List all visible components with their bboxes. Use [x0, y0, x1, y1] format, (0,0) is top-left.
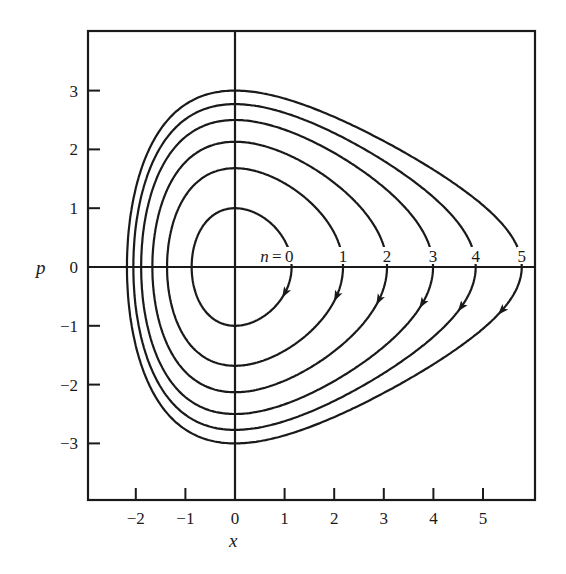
direction-arrows: [279, 286, 509, 317]
orbit-label: n = 0: [260, 247, 293, 266]
x-tick-label: −1: [176, 509, 194, 528]
orbit-label: 5: [517, 247, 526, 266]
orbit-label: 4: [471, 247, 480, 266]
plot-frame: [88, 31, 535, 500]
y-axis-label: p: [34, 257, 46, 278]
x-tick-label: 5: [479, 509, 488, 528]
orbit-label: 2: [383, 247, 392, 266]
phase-space-diagram: −2−10123453210−1−2−3 n = 012345 p x: [0, 0, 566, 574]
x-tick-label: 3: [380, 509, 389, 528]
arrow-icon: [416, 297, 429, 311]
x-tick-label: 4: [429, 509, 438, 528]
arrow-icon: [373, 293, 385, 306]
y-tick-label: 1: [70, 199, 79, 218]
y-tick-label: 0: [70, 258, 79, 277]
arrow-icon: [330, 290, 342, 303]
x-axis-label: x: [228, 530, 238, 551]
y-tick-label: 3: [70, 82, 79, 101]
y-tick-label: 2: [70, 140, 79, 159]
x-tick-label: 2: [330, 509, 339, 528]
y-tick-label: −3: [60, 434, 78, 453]
orbit-label: 1: [339, 247, 348, 266]
x-tick-label: 0: [231, 509, 240, 528]
y-tick-label: −1: [60, 317, 78, 336]
orbit-label: 3: [429, 247, 438, 266]
y-tick-label: −2: [60, 376, 78, 395]
orbit-labels: n = 012345: [259, 247, 527, 266]
arrow-icon: [279, 286, 291, 300]
x-tick-label: −2: [127, 509, 145, 528]
x-tick-label: 1: [280, 509, 289, 528]
